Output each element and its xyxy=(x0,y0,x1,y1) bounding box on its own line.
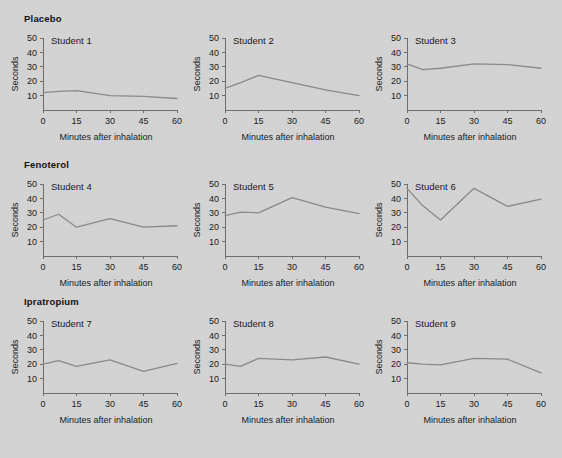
panel-student-6: 1020304050015304560Minutes after inhalat… xyxy=(372,172,547,290)
y-tick-label: 10 xyxy=(27,91,37,101)
chart-student-2: 1020304050015304560Minutes after inhalat… xyxy=(190,26,365,144)
y-tick-label: 20 xyxy=(391,76,401,86)
y-tick-label: 10 xyxy=(27,237,37,247)
panel-student-5: 1020304050015304560Minutes after inhalat… xyxy=(190,172,365,290)
y-tick-label: 50 xyxy=(27,33,37,43)
x-tick-label: 45 xyxy=(320,262,330,272)
y-tick-label: 40 xyxy=(209,331,219,341)
y-tick-label: 50 xyxy=(209,33,219,43)
y-axis-title: Seconds xyxy=(192,339,202,375)
x-tick-label: 15 xyxy=(71,116,81,126)
x-tick-label: 0 xyxy=(222,399,227,409)
x-tick-label: 0 xyxy=(404,262,409,272)
y-tick-label: 30 xyxy=(209,345,219,355)
y-tick-label: 30 xyxy=(391,208,401,218)
x-axis-title: Minutes after inhalation xyxy=(423,278,516,288)
x-axis-title: Minutes after inhalation xyxy=(241,415,334,425)
treatment-row-ipratropium: Ipratropium 1020304050015304560Minutes a… xyxy=(0,293,562,453)
x-axis-title: Minutes after inhalation xyxy=(423,132,516,142)
y-axis-title: Seconds xyxy=(10,56,20,92)
panel-title: Student 8 xyxy=(233,318,274,329)
x-tick-label: 0 xyxy=(40,262,45,272)
panel-student-1: 1020304050015304560Minutes after inhalat… xyxy=(8,26,183,144)
y-axis-title: Seconds xyxy=(192,202,202,238)
y-axis-title: Seconds xyxy=(10,202,20,238)
x-tick-label: 0 xyxy=(40,116,45,126)
y-tick-label: 50 xyxy=(391,316,401,326)
x-tick-label: 0 xyxy=(222,262,227,272)
y-tick-label: 50 xyxy=(27,316,37,326)
x-axis-title: Minutes after inhalation xyxy=(241,278,334,288)
x-tick-label: 60 xyxy=(172,262,182,272)
y-tick-label: 50 xyxy=(209,179,219,189)
y-tick-label: 40 xyxy=(27,331,37,341)
x-tick-label: 30 xyxy=(105,399,115,409)
data-line-student-5 xyxy=(225,198,359,216)
x-tick-label: 60 xyxy=(536,262,546,272)
x-tick-label: 15 xyxy=(435,399,445,409)
data-line-student-3 xyxy=(407,64,541,70)
y-tick-label: 30 xyxy=(27,62,37,72)
chart-student-8: 1020304050015304560Minutes after inhalat… xyxy=(190,309,365,427)
panel-title: Student 7 xyxy=(51,318,92,329)
x-tick-label: 15 xyxy=(253,116,263,126)
y-tick-label: 40 xyxy=(209,48,219,58)
chart-student-4: 1020304050015304560Minutes after inhalat… xyxy=(8,172,183,290)
y-tick-label: 10 xyxy=(209,237,219,247)
figure-canvas: Placebo 1020304050015304560Minutes after… xyxy=(0,0,562,458)
y-tick-label: 50 xyxy=(391,179,401,189)
y-tick-label: 10 xyxy=(209,374,219,384)
x-tick-label: 15 xyxy=(253,262,263,272)
y-tick-label: 30 xyxy=(391,345,401,355)
x-tick-label: 45 xyxy=(320,116,330,126)
x-tick-label: 60 xyxy=(536,399,546,409)
y-tick-label: 50 xyxy=(209,316,219,326)
y-tick-label: 10 xyxy=(209,91,219,101)
y-tick-label: 20 xyxy=(391,359,401,369)
y-tick-label: 20 xyxy=(391,222,401,232)
treatment-row-fenoterol: Fenoterol 1020304050015304560Minutes aft… xyxy=(0,156,562,295)
x-tick-label: 30 xyxy=(469,262,479,272)
panel-title: Student 3 xyxy=(415,35,456,46)
panel-title: Student 1 xyxy=(51,35,92,46)
data-line-student-8 xyxy=(225,357,359,366)
panel-student-2: 1020304050015304560Minutes after inhalat… xyxy=(190,26,365,144)
x-tick-label: 45 xyxy=(138,399,148,409)
x-tick-label: 0 xyxy=(404,116,409,126)
chart-student-1: 1020304050015304560Minutes after inhalat… xyxy=(8,26,183,144)
x-tick-label: 45 xyxy=(502,399,512,409)
y-tick-label: 40 xyxy=(391,48,401,58)
y-tick-label: 40 xyxy=(391,331,401,341)
group-heading-fenoterol: Fenoterol xyxy=(24,159,69,170)
y-axis-title: Seconds xyxy=(192,56,202,92)
x-tick-label: 15 xyxy=(253,399,263,409)
y-tick-label: 20 xyxy=(209,76,219,86)
y-tick-label: 20 xyxy=(27,222,37,232)
x-axis-title: Minutes after inhalation xyxy=(241,132,334,142)
x-tick-label: 30 xyxy=(469,399,479,409)
y-tick-label: 10 xyxy=(391,91,401,101)
x-tick-label: 30 xyxy=(105,116,115,126)
data-line-student-6 xyxy=(407,188,541,220)
y-axis-title: Seconds xyxy=(374,56,384,92)
x-tick-label: 45 xyxy=(320,399,330,409)
group-heading-ipratropium: Ipratropium xyxy=(24,296,79,307)
panel-title: Student 5 xyxy=(233,181,274,192)
x-axis-title: Minutes after inhalation xyxy=(59,278,152,288)
panel-title: Student 6 xyxy=(415,181,456,192)
x-tick-label: 60 xyxy=(536,116,546,126)
x-tick-label: 0 xyxy=(40,399,45,409)
data-line-student-1 xyxy=(43,91,177,99)
chart-student-5: 1020304050015304560Minutes after inhalat… xyxy=(190,172,365,290)
y-tick-label: 40 xyxy=(27,48,37,58)
y-tick-label: 20 xyxy=(27,359,37,369)
x-tick-label: 60 xyxy=(354,116,364,126)
treatment-row-placebo: Placebo 1020304050015304560Minutes after… xyxy=(0,8,562,156)
x-tick-label: 30 xyxy=(469,116,479,126)
y-axis-title: Seconds xyxy=(374,339,384,375)
y-axis-title: Seconds xyxy=(374,202,384,238)
panel-title: Student 2 xyxy=(233,35,274,46)
x-tick-label: 60 xyxy=(354,399,364,409)
x-tick-label: 0 xyxy=(404,399,409,409)
x-tick-label: 45 xyxy=(138,116,148,126)
